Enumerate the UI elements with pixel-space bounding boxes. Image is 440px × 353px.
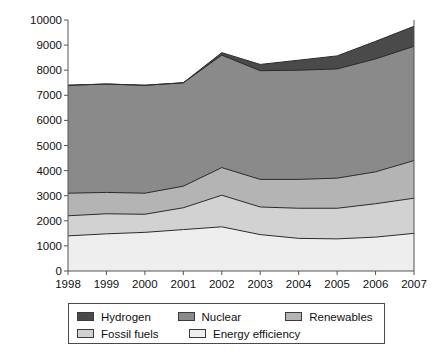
legend-label-energy-efficiency: Energy efficiency	[213, 328, 300, 340]
x-tick-label: 2003	[247, 278, 273, 290]
legend-label-hydrogen: Hydrogen	[101, 311, 151, 323]
y-tick-label: 2000	[36, 215, 62, 227]
x-tick-label: 2005	[324, 278, 350, 290]
y-tick-label: 9000	[36, 39, 62, 51]
legend-item-renewables[interactable]: Renewables	[285, 308, 384, 325]
y-tick-label: 5000	[36, 140, 62, 152]
x-tick-label: 2002	[209, 278, 235, 290]
y-tick-label: 3000	[36, 190, 62, 202]
legend-label-fossil-fuels: Fossil fuels	[101, 328, 159, 340]
x-axis-ticks	[68, 271, 414, 275]
x-tick-label: 1999	[94, 278, 120, 290]
legend-swatch-hydrogen	[77, 312, 94, 321]
y-tick-label: 8000	[36, 64, 62, 76]
legend-swatch-nuclear	[178, 312, 195, 321]
y-tick-label: 7000	[36, 89, 62, 101]
legend-item-nuclear[interactable]: Nuclear	[178, 308, 286, 325]
x-tick-label: 2004	[286, 278, 312, 290]
stacked-area-series-group	[68, 26, 414, 271]
x-tick-label: 2006	[363, 278, 389, 290]
x-tick-label: 2000	[132, 278, 158, 290]
legend-item-hydrogen[interactable]: Hydrogen	[77, 308, 178, 325]
y-tick-label: 10000	[30, 14, 62, 26]
x-axis-tick-labels: 1998199920002001200220032004200520062007	[55, 278, 427, 290]
y-axis-tick-labels: 10000 9000 8000 7000 6000 5000 4000 3000…	[30, 14, 62, 277]
stacked-area-chart: 10000 9000 8000 7000 6000 5000 4000 3000…	[0, 0, 440, 353]
legend-swatch-energy-efficiency	[189, 329, 206, 338]
y-tick-label: 6000	[36, 114, 62, 126]
chart-legend: Hydrogen Nuclear Renewables Fossil fuels…	[68, 303, 385, 344]
legend-row-bottom: Fossil fuels Energy efficiency	[69, 325, 384, 342]
legend-swatch-renewables	[285, 312, 302, 321]
legend-row-top: Hydrogen Nuclear Renewables	[69, 308, 384, 325]
y-tick-label: 0	[56, 265, 62, 277]
legend-item-energy-efficiency[interactable]: Energy efficiency	[189, 325, 309, 342]
y-tick-label: 1000	[36, 240, 62, 252]
y-axis-ticks	[64, 20, 68, 271]
legend-swatch-fossil-fuels	[77, 329, 94, 338]
y-tick-label: 4000	[36, 165, 62, 177]
x-tick-label: 2007	[401, 278, 427, 290]
legend-label-nuclear: Nuclear	[202, 311, 242, 323]
x-tick-label: 1998	[55, 278, 81, 290]
chart-plot-area: 10000 9000 8000 7000 6000 5000 4000 3000…	[0, 0, 440, 353]
x-tick-label: 2001	[171, 278, 197, 290]
legend-item-fossil-fuels[interactable]: Fossil fuels	[77, 325, 189, 342]
legend-label-renewables: Renewables	[309, 311, 372, 323]
